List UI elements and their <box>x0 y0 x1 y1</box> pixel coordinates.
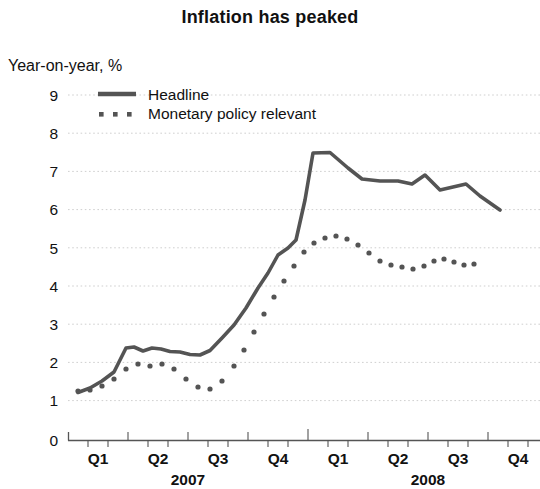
x-tick-label-q1-2008: Q1 <box>328 450 349 467</box>
legend-swatch-monetary-policy-relevant <box>99 112 132 117</box>
x-tick-label-q2-2007: Q2 <box>148 450 169 467</box>
x-tick-label-q4-2007: Q4 <box>268 450 289 467</box>
x-tick-label-q3-2008: Q3 <box>448 450 469 467</box>
y-tick-label: 6 <box>49 201 58 218</box>
data-point <box>461 262 466 267</box>
series-headline-line <box>78 153 500 393</box>
data-point <box>322 235 327 240</box>
data-point <box>388 262 393 267</box>
data-point <box>355 242 360 247</box>
data-point <box>251 329 256 334</box>
y-tick-label: 0 <box>49 432 58 449</box>
y-tick-label: 8 <box>49 125 58 142</box>
data-point <box>219 378 224 383</box>
x-axis-ticks <box>88 429 528 447</box>
x-tick-label-q4-2008: Q4 <box>508 450 529 467</box>
data-point <box>291 263 296 268</box>
legend-dot <box>113 112 118 117</box>
legend-dot <box>99 112 104 117</box>
data-point <box>441 256 446 261</box>
x-year-label-2008: 2008 <box>411 471 446 488</box>
data-point <box>377 258 382 263</box>
data-point <box>281 278 286 283</box>
data-point <box>410 266 415 271</box>
data-point <box>301 249 306 254</box>
y-tick-label: 1 <box>49 392 58 409</box>
y-tick-label: 7 <box>49 163 58 180</box>
y-tick-labels: 9 8 7 6 5 4 3 2 1 0 <box>49 87 58 449</box>
data-point <box>421 263 426 268</box>
data-point <box>171 366 176 371</box>
legend-label-headline: Headline <box>148 86 209 103</box>
data-point <box>261 311 266 316</box>
legend-dot <box>127 112 132 117</box>
y-tick-label: 9 <box>49 87 58 104</box>
x-tick-label-q1-2007: Q1 <box>88 450 109 467</box>
data-point <box>471 261 476 266</box>
x-year-label-2007: 2007 <box>171 471 205 488</box>
legend: Headline Monetary policy relevant <box>98 86 317 122</box>
y-tick-label: 2 <box>49 354 58 371</box>
data-point <box>271 294 276 299</box>
data-point <box>344 236 349 241</box>
chart-figure: Inflation has peaked Year-on-year, % 9 8… <box>0 0 540 489</box>
data-point <box>135 361 140 366</box>
x-tick-label-q3-2007: Q3 <box>208 450 229 467</box>
data-point <box>231 363 236 368</box>
data-point <box>159 361 164 366</box>
x-tick-label-q2-2008: Q2 <box>388 450 409 467</box>
data-point <box>366 250 371 255</box>
data-point <box>311 240 316 245</box>
chart-plot-area: 9 8 7 6 5 4 3 2 1 0 <box>0 0 540 489</box>
data-point <box>195 384 200 389</box>
y-tick-label: 4 <box>49 278 58 295</box>
x-year-labels: 2007 2008 <box>171 471 446 488</box>
gridlines <box>68 95 540 401</box>
x-quarter-labels: Q1 Q2 Q3 Q4 Q1 Q2 Q3 Q4 <box>88 450 529 467</box>
data-point <box>111 376 116 381</box>
data-point <box>241 347 246 352</box>
y-tick-label: 3 <box>49 316 58 333</box>
data-point <box>183 376 188 381</box>
data-point <box>431 258 436 263</box>
data-point <box>147 363 152 368</box>
y-tick-label: 5 <box>49 240 58 257</box>
data-point <box>99 383 104 388</box>
data-point <box>207 386 212 391</box>
data-point <box>333 233 338 238</box>
data-point <box>451 259 456 264</box>
axis-lines <box>68 432 540 441</box>
data-point <box>399 264 404 269</box>
data-point <box>123 366 128 371</box>
legend-label-monetary-policy-relevant: Monetary policy relevant <box>148 105 317 122</box>
